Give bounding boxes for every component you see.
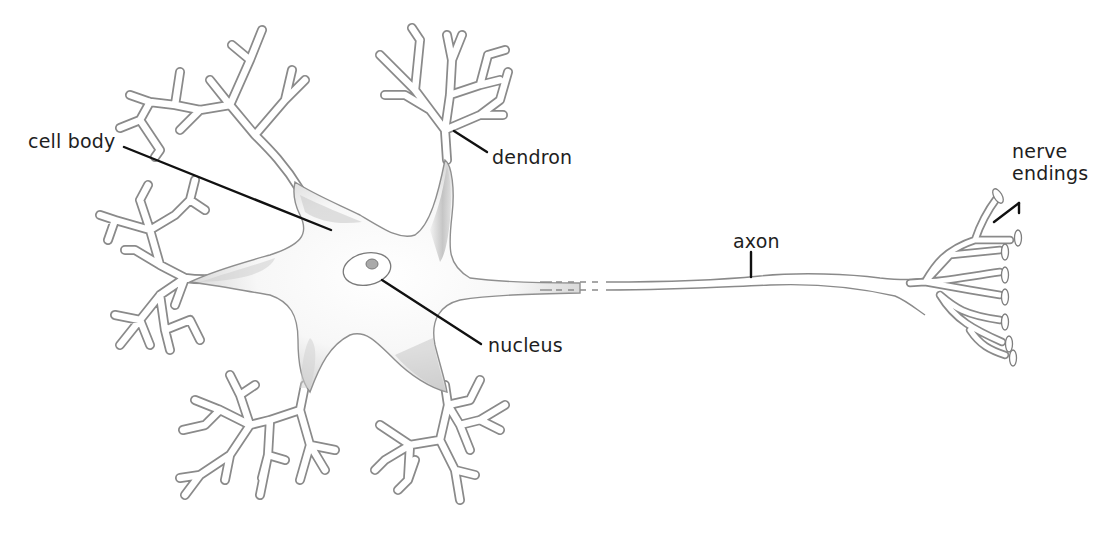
dendrite-tree-lower-left [180,375,335,495]
neuron-diagram [0,0,1114,536]
leader-nerve-endings-a [994,203,1019,222]
dendrite-tree-left [100,180,250,350]
leader-dendron [454,131,487,152]
label-nerve-endings: nerve endings [1012,140,1088,184]
dendrite-tree-upper-right [380,28,508,160]
dendrite-tree-lower-right [375,380,505,500]
label-nerve-endings-line-2: endings [1012,162,1088,184]
label-cell-body: cell body [28,130,116,152]
label-dendron: dendron [492,146,572,168]
label-nerve-endings-line-1: nerve [1012,140,1088,162]
dendrite-tree-upper-left [120,30,305,190]
label-nucleus: nucleus [488,334,563,356]
label-axon: axon [733,230,780,252]
axon-shape [540,274,925,315]
